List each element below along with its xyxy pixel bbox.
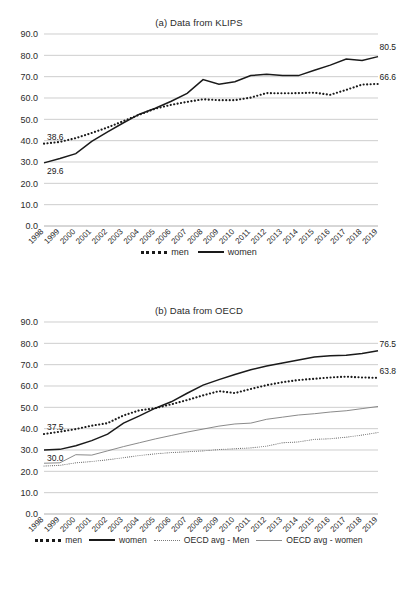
x-axis-tick-label: 2016	[313, 515, 332, 534]
x-axis-tick-label: 2003	[106, 227, 125, 246]
x-axis-tick-label: 2014	[281, 515, 300, 534]
series-line-women	[44, 351, 378, 450]
x-axis-tick-label: 2014	[281, 227, 300, 246]
x-axis-tick-label: 2008	[186, 227, 205, 246]
data-point-label: 63.8	[379, 366, 396, 376]
x-axis-tick-label: 2018	[345, 515, 364, 534]
x-axis-tick-label: 2007	[170, 515, 189, 534]
chart-panel-a: (a) Data from KLIPS 0.010.020.030.040.05…	[0, 0, 398, 300]
series-line-oecd-avg-men	[44, 433, 378, 466]
y-axis-tick-label: 10.0	[20, 488, 38, 498]
x-axis-tick-label: 1999	[42, 515, 61, 534]
y-axis-tick-label: 70.0	[20, 72, 38, 82]
y-axis-tick-label: 40.0	[20, 136, 38, 146]
y-axis-tick-label: 90.0	[20, 318, 38, 327]
y-axis-tick-label: 60.0	[20, 381, 38, 391]
x-axis-tick-label: 2002	[90, 515, 109, 534]
x-axis-tick-label: 2000	[58, 515, 77, 534]
x-axis-tick-label: 2008	[186, 515, 205, 534]
y-axis-tick-label: 10.0	[20, 200, 38, 210]
x-axis-tick-label: 2003	[106, 515, 125, 534]
series-line-men	[44, 377, 378, 434]
x-axis-tick-label: 2005	[138, 227, 157, 246]
x-axis-tick-label: 2009	[201, 227, 220, 246]
chart-panel-b: (b) Data from OECD 0.010.020.030.040.050…	[0, 300, 398, 593]
y-axis-tick-label: 60.0	[20, 93, 38, 103]
data-point-label: 37.5	[47, 422, 64, 432]
x-axis-tick-label: 2013	[265, 515, 284, 534]
panel-b-title: (b) Data from OECD	[0, 300, 398, 318]
data-point-label: 80.5	[379, 42, 396, 52]
x-axis-tick-label: 2019	[360, 515, 379, 534]
x-axis-tick-label: 2018	[345, 227, 364, 246]
data-point-label: 66.6	[379, 72, 396, 82]
x-axis-tick-label: 2001	[74, 227, 93, 246]
x-axis-tick-label: 2009	[201, 515, 220, 534]
y-axis-tick-label: 80.0	[20, 339, 38, 349]
x-axis-tick-label: 2015	[297, 227, 316, 246]
x-axis-tick-label: 2004	[122, 515, 141, 534]
series-line-women	[44, 57, 378, 163]
y-axis-tick-label: 70.0	[20, 360, 38, 370]
data-point-label: 29.6	[47, 166, 64, 176]
x-axis-tick-label: 2013	[265, 227, 284, 246]
data-point-label: 38.6	[47, 132, 64, 142]
x-axis-tick-label: 2011	[234, 227, 253, 246]
x-axis-tick-label: 2001	[74, 515, 93, 534]
panel-b-svg: 0.010.020.030.040.050.060.070.080.090.01…	[0, 318, 398, 578]
x-axis-tick-label: 2016	[313, 227, 332, 246]
y-axis-tick-label: 90.0	[20, 30, 38, 39]
x-axis-tick-label: 2017	[329, 515, 348, 534]
x-axis-tick-label: 2000	[58, 227, 77, 246]
panel-a-title: (a) Data from KLIPS	[0, 0, 398, 30]
x-axis-tick-label: 2010	[217, 227, 236, 246]
x-axis-tick-label: 2004	[122, 227, 141, 246]
x-axis-tick-label: 2006	[154, 515, 173, 534]
panel-a-plot-area: 0.010.020.030.040.050.060.070.080.090.01…	[0, 30, 398, 242]
x-axis-tick-label: 1999	[42, 227, 61, 246]
y-axis-tick-label: 40.0	[20, 424, 38, 434]
x-axis-tick-label: 2005	[138, 515, 157, 534]
data-point-label: 76.5	[379, 339, 396, 349]
y-axis-tick-label: 30.0	[20, 157, 38, 167]
panel-a-svg: 0.010.020.030.040.050.060.070.080.090.01…	[0, 30, 398, 290]
y-axis-tick-label: 80.0	[20, 51, 38, 61]
y-axis-tick-label: 50.0	[20, 115, 38, 125]
y-axis-tick-label: 20.0	[20, 467, 38, 477]
x-axis-tick-label: 2010	[217, 515, 236, 534]
x-axis-tick-label: 2019	[360, 227, 379, 246]
y-axis-tick-label: 30.0	[20, 445, 38, 455]
panel-b-plot-area: 0.010.020.030.040.050.060.070.080.090.01…	[0, 318, 398, 530]
x-axis-tick-label: 2006	[154, 227, 173, 246]
y-axis-tick-label: 50.0	[20, 403, 38, 413]
y-axis-tick-label: 20.0	[20, 179, 38, 189]
series-line-men	[44, 84, 378, 144]
data-point-label: 30.0	[47, 453, 64, 463]
series-line-oecd-avg-women	[44, 406, 378, 463]
x-axis-tick-label: 2002	[90, 227, 109, 246]
x-axis-tick-label: 2007	[170, 227, 189, 246]
x-axis-tick-label: 2011	[234, 515, 253, 534]
x-axis-tick-label: 2017	[329, 227, 348, 246]
x-axis-tick-label: 2012	[249, 515, 268, 534]
x-axis-tick-label: 2015	[297, 515, 316, 534]
x-axis-tick-label: 2012	[249, 227, 268, 246]
